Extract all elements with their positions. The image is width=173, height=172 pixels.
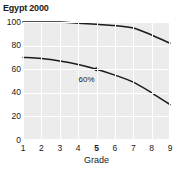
gridline-horizontal — [23, 46, 170, 47]
x-axis-tick-label: 7 — [126, 143, 140, 153]
chart-container: Egypt 2000 100806040200 123456789 Grade … — [0, 0, 173, 172]
x-axis-tick-label: 2 — [34, 143, 48, 153]
x-axis-tick-label: 9 — [163, 143, 173, 153]
gridline-vertical — [97, 22, 98, 140]
y-axis-tick-label: 100 — [0, 18, 21, 27]
gridline-vertical — [169, 22, 170, 140]
x-axis-tick-label: 5 — [90, 143, 104, 153]
gridline-horizontal — [23, 22, 170, 23]
y-axis-tick-label: 20 — [0, 112, 21, 121]
gridline-vertical — [60, 22, 61, 140]
x-axis-tick-label: 4 — [71, 143, 85, 153]
gridline-vertical — [23, 22, 24, 140]
annotation-60-percent: 60% — [79, 75, 95, 84]
x-axis-tick-label: 8 — [145, 143, 159, 153]
x-axis-title: Grade — [23, 155, 170, 165]
gridline-horizontal — [23, 116, 170, 117]
gridline-vertical — [133, 22, 134, 140]
y-axis-tick-label: 40 — [0, 88, 21, 97]
x-axis-tick-label: 3 — [53, 143, 67, 153]
gridline-horizontal — [23, 139, 170, 140]
gridline-vertical — [115, 22, 116, 140]
y-axis-tick-label: 80 — [0, 41, 21, 50]
y-axis-tick-label: 60 — [0, 65, 21, 74]
x-axis-tick-label: 1 — [16, 143, 30, 153]
gridline-vertical — [41, 22, 42, 140]
x-axis-tick-label: 6 — [108, 143, 122, 153]
gridline-horizontal — [23, 93, 170, 94]
gridline-horizontal — [23, 69, 170, 70]
plot-area — [23, 22, 170, 140]
gridline-vertical — [152, 22, 153, 140]
